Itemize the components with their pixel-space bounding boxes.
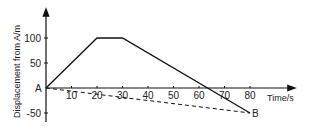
y-tick-label: 50 [30, 58, 42, 69]
point-a-label: A [35, 83, 42, 94]
x-tick-label: 40 [142, 90, 154, 101]
point-b-label: B [252, 108, 259, 119]
y-tick-label: -50 [27, 108, 42, 119]
x-tick-label: 80 [244, 90, 256, 101]
x-tick-label: 20 [91, 90, 103, 101]
displacement-time-graph: 102030405060708010050-50 Displacement fr… [0, 0, 310, 131]
displacement-line [46, 38, 250, 113]
y-tick-label: 100 [24, 33, 41, 44]
x-tick-label: 30 [117, 90, 129, 101]
y-axis-label: Displacement from A/m [12, 25, 22, 118]
x-tick-label: 50 [168, 90, 180, 101]
x-tick-label: 60 [193, 90, 205, 101]
x-axis-label: Time/s [267, 93, 294, 103]
